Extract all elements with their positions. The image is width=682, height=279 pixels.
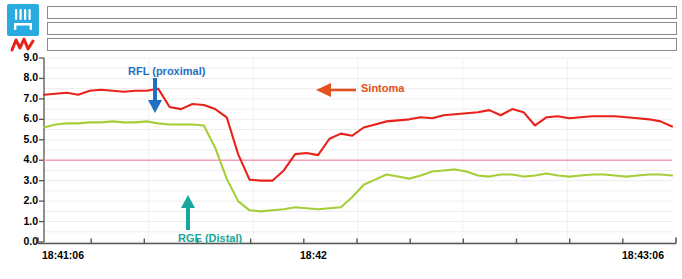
impedance-probe-icon[interactable] <box>7 4 39 36</box>
y-tick-label: 2.0 <box>4 194 38 206</box>
y-tick-label: 6.0 <box>4 112 38 124</box>
y-axis-labels: 0.01.02.03.04.05.06.07.08.09.0 <box>0 52 38 252</box>
impedance-track-3[interactable] <box>47 38 677 51</box>
y-tick-label: 3.0 <box>4 174 38 186</box>
y-tick-label: 7.0 <box>4 92 38 104</box>
x-tick-label-start: 18:41:06 <box>42 249 84 261</box>
ph-chart: 0.01.02.03.04.05.06.07.08.09.0 18:41:06 … <box>0 52 682 279</box>
app-root: 0.01.02.03.04.05.06.07.08.09.0 18:41:06 … <box>0 0 682 279</box>
x-tick-label-mid: 18:42 <box>300 249 327 261</box>
impedance-track-2[interactable] <box>47 22 677 35</box>
y-tick-label: 5.0 <box>4 133 38 145</box>
y-tick-label: 8.0 <box>4 71 38 83</box>
impedance-track-1[interactable] <box>47 6 677 19</box>
y-tick-label: 9.0 <box>4 51 38 63</box>
annotation-rge-label: RGE (Distal) <box>178 232 242 244</box>
y-tick-label: 0.0 <box>4 235 38 247</box>
y-tick-label: 1.0 <box>4 215 38 227</box>
toolbar-icon-column <box>4 4 42 52</box>
y-tick-label: 4.0 <box>4 153 38 165</box>
annotation-sintoma-label: Sintoma <box>361 82 404 94</box>
x-tick-label-end: 18:43:06 <box>622 249 664 261</box>
annotation-rfl-label: RFL (proximal) <box>128 65 205 77</box>
ph-chart-canvas <box>0 52 682 279</box>
impedance-channels <box>47 6 679 53</box>
